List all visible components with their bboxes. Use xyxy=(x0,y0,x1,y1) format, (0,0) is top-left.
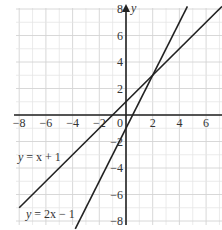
y-tick-label: 8 xyxy=(117,2,123,16)
x-tick-label: 6 xyxy=(203,116,209,130)
y-axis-label: y xyxy=(130,1,137,15)
y-tick-label: −8 xyxy=(110,214,123,228)
label-line-y-equals-2x-minus-1: y = 2x − 1 xyxy=(25,207,75,221)
y-tick-label: −4 xyxy=(110,161,123,175)
y-axis-arrow-icon xyxy=(122,4,130,12)
y-tick-label: 4 xyxy=(117,55,123,69)
x-tick-label: −8 xyxy=(13,116,26,130)
x-tick-label: −4 xyxy=(66,116,79,130)
y-tick-label: 2 xyxy=(117,82,123,96)
x-tick-label: 0 xyxy=(117,116,123,130)
x-tick-label: −2 xyxy=(93,116,106,130)
y-tick-label: −6 xyxy=(110,188,123,202)
coordinate-graph: y −8−6−4−202468642−2−4−6−8 y = x + 1 y =… xyxy=(0,0,222,230)
x-tick-label: 4 xyxy=(176,116,182,130)
y-tick-label: 6 xyxy=(117,29,123,43)
x-tick-label: −6 xyxy=(40,116,53,130)
y-tick-label: −2 xyxy=(110,135,123,149)
x-tick-label: 2 xyxy=(150,116,156,130)
label-line-y-equals-x-plus-1: y = x + 1 xyxy=(17,150,61,164)
